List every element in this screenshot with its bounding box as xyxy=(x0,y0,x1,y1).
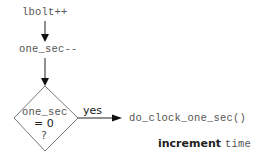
decision-text-line3: ? xyxy=(41,129,47,142)
annotation-increment-time: increment time xyxy=(158,133,251,151)
arrow-down-icon xyxy=(41,78,49,86)
annotation-mono: time xyxy=(225,138,251,150)
node-do-clock-one-sec: do_clock_one_sec() xyxy=(129,112,246,124)
arrow-right-icon xyxy=(112,115,122,122)
annotation-bold: increment xyxy=(158,137,221,150)
node-lbolt-increment: lbolt++ xyxy=(22,6,68,18)
arrow-down-icon xyxy=(41,34,49,42)
edge-label-yes: yes xyxy=(83,104,102,117)
node-one-sec-decrement: one_sec-- xyxy=(19,43,78,55)
